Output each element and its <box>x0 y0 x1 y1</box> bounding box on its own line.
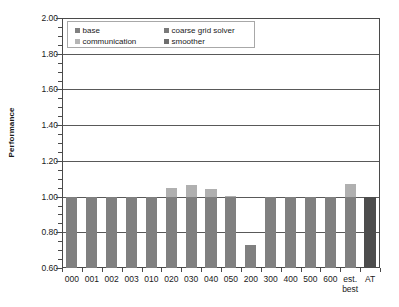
gridline <box>63 197 379 198</box>
legend-swatch-communication <box>75 39 80 44</box>
gridline <box>63 125 379 126</box>
x-tick <box>380 268 381 272</box>
legend-item-base: base <box>75 26 100 35</box>
x-tick <box>181 268 182 272</box>
legend-label-communication: communication <box>83 37 137 46</box>
x-tick <box>201 268 202 272</box>
x-tick <box>62 268 63 272</box>
gridline <box>63 54 379 55</box>
x-tick <box>281 268 282 272</box>
legend-item-communication: communication <box>75 37 136 46</box>
x-tick <box>340 268 341 272</box>
y-tick-label: 1.20 <box>24 157 58 166</box>
y-tick-label: 0.60 <box>24 264 58 273</box>
legend-item-smoother: smoother <box>164 37 205 46</box>
x-tick <box>161 268 162 272</box>
x-tick <box>241 268 242 272</box>
y-tick-label: 1.60 <box>24 85 58 94</box>
x-tick <box>261 268 262 272</box>
gridline <box>63 161 379 162</box>
y-tick-label: 1.80 <box>24 50 58 59</box>
legend: base coarse grid solver communication sm… <box>67 21 255 48</box>
legend-label-coarse-grid-solver: coarse grid solver <box>172 26 235 35</box>
x-tick <box>221 268 222 272</box>
legend-label-smoother: smoother <box>172 37 205 46</box>
x-tick <box>82 268 83 272</box>
y-tick-label: 0.80 <box>24 228 58 237</box>
performance-bar-chart: Performance 2.001.801.601.401.201.000.80… <box>0 0 399 307</box>
x-tick <box>142 268 143 272</box>
y-tick-label: 2.00 <box>24 14 58 23</box>
legend-swatch-base <box>75 28 80 33</box>
legend-item-coarse-grid-solver: coarse grid solver <box>164 26 235 35</box>
y-tick-label: 1.40 <box>24 121 58 130</box>
x-tick <box>102 268 103 272</box>
plot-area <box>62 18 380 268</box>
x-tick <box>122 268 123 272</box>
gridline <box>63 89 379 90</box>
x-label: AT <box>356 274 384 284</box>
y-tick-label: 1.00 <box>24 193 58 202</box>
x-tick <box>320 268 321 272</box>
legend-swatch-coarse-grid-solver <box>164 28 169 33</box>
y-axis-title: Performance <box>7 93 16 173</box>
gridline <box>63 232 379 233</box>
x-tick <box>360 268 361 272</box>
legend-label-base: base <box>83 26 100 35</box>
legend-swatch-smoother <box>164 39 169 44</box>
x-tick <box>301 268 302 272</box>
